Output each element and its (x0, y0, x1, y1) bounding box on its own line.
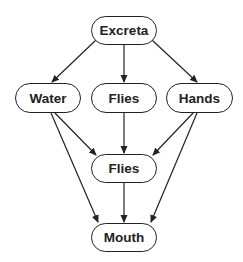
node-hands: Hands (166, 83, 233, 113)
node-water: Water (15, 83, 81, 113)
node-excreta: Excreta (91, 16, 157, 45)
node-flies-mid: Flies (91, 154, 157, 183)
node-label: Flies (109, 161, 140, 176)
edge-excreta-hands (152, 40, 197, 82)
node-label: Excreta (100, 23, 149, 38)
node-mouth: Mouth (91, 223, 157, 252)
edge-hands-mouth (151, 113, 197, 222)
node-label: Flies (109, 91, 140, 106)
node-label: Hands (179, 91, 220, 106)
node-label: Water (29, 91, 66, 106)
node-label: Mouth (104, 230, 144, 245)
edge-excreta-water (52, 40, 96, 82)
node-flies-top: Flies (91, 83, 157, 113)
